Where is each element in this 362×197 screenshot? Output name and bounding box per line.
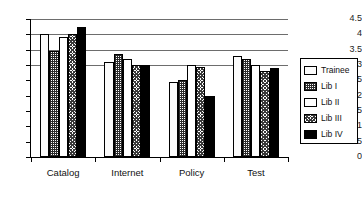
bar-internet-lib-i — [114, 54, 123, 157]
bar-catalog-trainee — [40, 34, 49, 157]
bar-chart: 00.511.522.533.544.5 CatalogInternetPoli… — [0, 0, 362, 197]
legend-swatch-icon — [304, 98, 317, 107]
bar-test-lib-ii — [251, 65, 260, 157]
legend-label: Lib I — [321, 82, 337, 91]
bar-internet-lib-iii — [132, 65, 141, 157]
x-category-label-internet: Internet — [95, 167, 159, 178]
x-tick-mark — [31, 157, 32, 162]
x-tick-mark — [160, 157, 161, 162]
bar-catalog-lib-iv — [77, 27, 86, 157]
bar-test-lib-iv — [270, 68, 279, 157]
legend-swatch-icon — [304, 82, 317, 91]
x-tick-mark — [288, 157, 289, 162]
x-category-label-test: Test — [224, 167, 288, 178]
legend-item-lib-iv[interactable]: Lib IV — [304, 126, 355, 142]
legend-label: Lib III — [321, 114, 342, 123]
x-category-label-catalog: Catalog — [31, 167, 95, 178]
bar-test-trainee — [233, 56, 242, 157]
legend-label: Trainee — [321, 66, 350, 75]
bar-policy-lib-ii — [187, 65, 196, 157]
x-category-label-policy: Policy — [160, 167, 224, 178]
bar-catalog-lib-ii — [59, 37, 68, 157]
legend-swatch-icon — [304, 114, 317, 123]
legend-item-trainee[interactable]: Trainee — [304, 62, 355, 78]
bar-policy-trainee — [169, 82, 178, 157]
x-tick-mark — [224, 157, 225, 162]
chart-title — [0, 0, 362, 9]
bar-internet-lib-iv — [141, 65, 150, 157]
legend-swatch-icon — [304, 130, 317, 139]
bar-test-lib-iii — [260, 71, 269, 157]
y-tick-label: 4 — [336, 29, 362, 38]
bar-internet-trainee — [104, 62, 113, 157]
legend-label: Lib IV — [321, 130, 343, 139]
bar-policy-lib-iii — [196, 67, 205, 157]
legend-label: Lib II — [321, 98, 339, 107]
legend: TraineeLib ILib IILib IIILib IV — [300, 58, 358, 144]
bar-internet-lib-ii — [123, 59, 132, 157]
bar-policy-lib-i — [178, 80, 187, 157]
bar-catalog-lib-iii — [68, 34, 77, 157]
bar-catalog-lib-i — [49, 51, 58, 157]
plot-area — [31, 19, 288, 157]
legend-swatch-icon — [304, 66, 317, 75]
bar-policy-lib-iv — [205, 96, 214, 157]
legend-item-lib-ii[interactable]: Lib II — [304, 94, 355, 110]
y-tick-label: 0 — [336, 152, 362, 161]
x-tick-mark — [95, 157, 96, 162]
y-tick-label: 4.5 — [336, 14, 362, 23]
legend-item-lib-i[interactable]: Lib I — [304, 78, 355, 94]
legend-item-lib-iii[interactable]: Lib III — [304, 110, 355, 126]
bar-test-lib-i — [242, 59, 251, 157]
y-tick-label: 3.5 — [336, 45, 362, 54]
